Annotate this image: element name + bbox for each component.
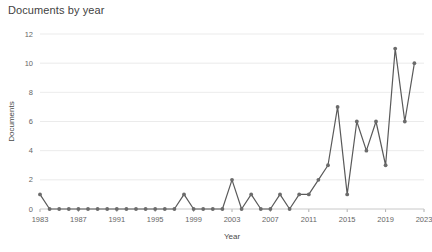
x-axis-tick-label: 2011 <box>301 215 317 224</box>
data-point-marker <box>403 120 407 124</box>
data-point-marker <box>393 47 397 51</box>
data-point-marker <box>192 207 196 211</box>
data-point-marker <box>365 149 369 153</box>
chart-container: Documents by year 0246810121983198719911… <box>0 0 432 252</box>
data-series-line <box>40 49 414 209</box>
x-axis-tick-label: 2019 <box>377 215 394 224</box>
data-point-marker <box>413 61 417 65</box>
y-axis-tick-label: 10 <box>25 59 33 68</box>
data-point-marker <box>201 207 205 211</box>
data-point-marker <box>96 207 100 211</box>
data-point-marker <box>67 207 71 211</box>
x-axis-tick-label: 2023 <box>416 215 432 224</box>
data-point-marker <box>38 193 42 197</box>
data-point-marker <box>105 207 109 211</box>
y-axis-tick-label: 12 <box>25 30 33 39</box>
data-point-marker <box>115 207 119 211</box>
data-point-marker <box>230 178 234 182</box>
data-point-marker <box>278 193 282 197</box>
x-axis-tick-label: 1987 <box>70 215 87 224</box>
y-axis-tick-label: 4 <box>29 146 33 155</box>
x-axis-title: Year <box>224 232 241 241</box>
data-point-marker <box>307 193 311 197</box>
data-point-marker <box>221 207 225 211</box>
data-point-marker <box>326 163 330 167</box>
data-point-marker <box>77 207 81 211</box>
x-axis-tick-label: 2003 <box>224 215 241 224</box>
data-point-marker <box>163 207 167 211</box>
y-axis-tick-label: 0 <box>29 205 33 214</box>
data-point-marker <box>144 207 148 211</box>
x-axis-tick-label: 1991 <box>108 215 125 224</box>
y-axis-tick-label: 2 <box>29 175 33 184</box>
data-point-marker <box>57 207 61 211</box>
data-point-marker <box>240 207 244 211</box>
data-point-marker <box>317 178 321 182</box>
data-point-marker <box>345 193 349 197</box>
y-axis-tick-label: 8 <box>29 88 33 97</box>
data-point-marker <box>182 193 186 197</box>
data-point-marker <box>86 207 90 211</box>
data-point-marker <box>134 207 138 211</box>
x-axis-tick-label: 2015 <box>339 215 356 224</box>
x-axis-tick-label: 2007 <box>262 215 279 224</box>
data-point-marker <box>153 207 157 211</box>
data-point-marker <box>249 193 253 197</box>
data-point-marker <box>211 207 215 211</box>
data-point-marker <box>384 163 388 167</box>
data-point-marker <box>297 193 301 197</box>
data-point-marker <box>374 120 378 124</box>
x-axis-tick-label: 1995 <box>147 215 164 224</box>
x-axis-tick-label: 1999 <box>185 215 202 224</box>
data-point-marker <box>48 207 52 211</box>
data-point-marker <box>259 207 263 211</box>
data-point-marker <box>355 120 359 124</box>
data-point-marker <box>269 207 273 211</box>
y-axis-tick-label: 6 <box>29 117 33 126</box>
data-point-marker <box>173 207 177 211</box>
data-point-marker <box>125 207 129 211</box>
y-axis-title: Documents <box>7 101 16 141</box>
data-point-marker <box>288 207 292 211</box>
data-point-marker <box>336 105 340 109</box>
x-axis-tick-label: 1983 <box>32 215 49 224</box>
line-chart-plot: 0246810121983198719911995199920032007201… <box>0 0 432 252</box>
